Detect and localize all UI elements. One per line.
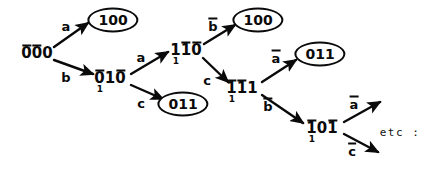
annotation-etc: etc : (380, 126, 421, 139)
edge-label: b (60, 71, 71, 84)
node-digit: 0 (108, 13, 118, 27)
overbar-icon (238, 80, 247, 82)
edge-label: a (61, 20, 72, 33)
node-digit: 1 (188, 97, 198, 111)
node-digit: 1 (178, 97, 188, 111)
node-digit: 1 (105, 71, 115, 86)
overbar-icon (95, 70, 104, 72)
node-subscript: 1 (229, 95, 235, 104)
node-subscript: 1 (309, 135, 315, 144)
node-digit: 1 (327, 121, 337, 136)
node-digit: 1 (237, 81, 247, 96)
node-digit: 0 (305, 47, 315, 61)
edge-label-text: c (202, 74, 212, 87)
overbar-icon (33, 45, 42, 47)
edge-label-text: b (60, 71, 71, 84)
overbar-icon (271, 50, 280, 52)
node-subscript: 1 (97, 85, 103, 94)
edge-label-text: a (61, 20, 72, 33)
overbar-icon (328, 120, 337, 122)
diagram-node-circled: 100 (87, 8, 138, 33)
node-subscript: 1 (173, 57, 179, 66)
diagram-node: 1101 (170, 43, 201, 58)
edge-label-text: b (262, 100, 273, 113)
edge-label: a (136, 51, 147, 64)
node-digit: 0 (42, 46, 52, 61)
edge-label: c (202, 74, 212, 87)
overbar-icon (22, 45, 31, 47)
edge-label-text: a (271, 52, 282, 65)
edge-label-text: a (349, 98, 360, 111)
node-digit: 0 (32, 46, 42, 61)
edge-label: b (207, 20, 218, 33)
node-digits: 100 (98, 13, 127, 27)
node-digit: 0 (253, 13, 263, 27)
node-digit: 1 (243, 13, 253, 27)
diagram-node-circled: 011 (294, 42, 345, 67)
node-digits: 011 (305, 47, 334, 61)
overbar-icon (192, 42, 201, 44)
edge-label: a (349, 98, 360, 111)
diagram-node: 0101 (94, 71, 125, 86)
overbar-icon (348, 143, 356, 145)
edge-label-text: a (136, 51, 147, 64)
overbar-icon (208, 18, 218, 20)
node-digit: 0 (115, 71, 125, 86)
node-digits: 000 (21, 46, 52, 61)
diagram-node: 1011 (306, 121, 337, 136)
diagram-canvas: 0001000101011110110011110111011 abacbcab… (0, 0, 438, 171)
overbar-icon (116, 70, 125, 72)
overbar-icon (263, 98, 273, 100)
overbar-icon (182, 42, 191, 44)
node-digit: 1 (181, 43, 191, 58)
edge-label: c (136, 97, 146, 110)
node-digit: 1 (247, 81, 257, 96)
node-digit: 0 (263, 13, 273, 27)
node-digit: 0 (168, 97, 178, 111)
node-digits: 100 (243, 13, 272, 27)
diagram-node-circled: 100 (232, 8, 283, 33)
diagram-node: 1111 (226, 81, 257, 96)
edge-label: a (271, 52, 282, 65)
diagram-node: 000 (21, 46, 52, 61)
edge-label-text: b (207, 20, 218, 33)
edge-label-text: c (347, 145, 357, 158)
edge-label: b (262, 100, 273, 113)
node-digit: 0 (191, 43, 201, 58)
edge-label-text: c (136, 97, 146, 110)
node-digit: 1 (325, 47, 335, 61)
overbar-icon (227, 80, 236, 82)
overbar-icon (349, 96, 358, 98)
overbar-icon (307, 120, 316, 122)
diagram-node-circled: 011 (157, 92, 208, 117)
node-digits: 011 (168, 97, 197, 111)
edge-label: c (347, 145, 357, 158)
node-digit: 1 (98, 13, 108, 27)
node-digit: 1 (315, 47, 325, 61)
node-digit: 0 (118, 13, 128, 27)
node-digit: 0 (317, 121, 327, 136)
node-digit: 0 (21, 46, 31, 61)
